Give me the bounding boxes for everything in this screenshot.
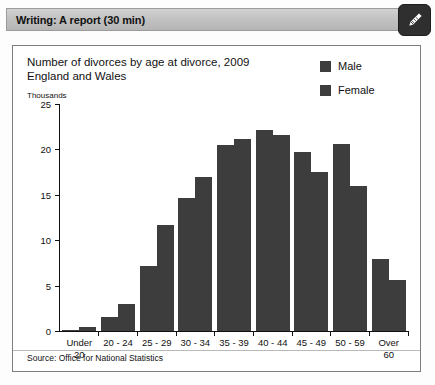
x-axis-tick [292,331,331,336]
bar-female [311,172,328,331]
legend-swatch-female [320,85,331,96]
y-axis-tick-label: 10 [27,235,51,246]
legend-swatch-male [320,61,331,72]
bar-group [292,104,331,331]
bar-male [140,266,157,331]
x-axis-label: Over 60 [369,337,408,361]
x-axis-tick [176,331,215,336]
bar-group [176,104,215,331]
bar-group [137,104,176,331]
bar-group [60,104,99,331]
bar-female [389,280,406,331]
bar-groups [60,104,408,331]
x-axis-label: 30 - 34 [176,337,215,361]
bar-group [253,104,292,331]
x-axis-tick [99,331,138,336]
screenshot-root: Writing: A report (30 min) Number of div… [0,0,435,385]
chart-title-line-2: England and Wales [27,69,249,83]
plot-area: 2520151050 Under 2020 - 2425 - 2930 - 34… [27,104,409,349]
pencil-icon[interactable] [398,4,431,36]
x-axis-label: 45 - 49 [292,337,331,361]
x-axis-ticks [60,331,408,336]
chart-title-line-1: Number of divorces by age at divorce, 20… [27,55,249,69]
legend-label-female: Female [338,84,375,96]
chart-legend: Male Female [320,54,404,102]
x-axis-tick [369,331,408,336]
x-axis-tick [253,331,292,336]
bar-female [273,135,290,331]
y-axis-tick-label: 25 [27,99,51,110]
bar-group [369,104,408,331]
y-axis-tick-label: 5 [27,280,51,291]
bar-male [333,144,350,331]
legend-label-male: Male [338,60,362,72]
bar-group [99,104,138,331]
exercise-header-bar: Writing: A report (30 min) [6,8,412,31]
chart-title: Number of divorces by age at divorce, 20… [27,55,249,83]
bar-male [372,259,389,331]
page-title: Writing: A report (30 min) [7,14,145,26]
bar-male [294,152,311,331]
source-divider [13,350,420,351]
bar-female [157,225,174,331]
y-axis: 2520151050 [27,104,57,331]
x-axis-tick [60,331,99,336]
legend-item-female: Female [320,78,404,102]
y-axis-tick-label: 15 [27,189,51,200]
y-axis-tick-label: 0 [27,326,51,337]
bar-group [215,104,254,331]
bar-female [118,304,135,331]
x-axis-label: 35 - 39 [215,337,254,361]
chart-source-note: Source: Office for National Statistics [27,353,163,363]
bar-male [256,130,273,331]
x-axis-tick [331,331,370,336]
x-axis-label: 40 - 44 [253,337,292,361]
bar-female [195,177,212,331]
bar-female [350,186,367,331]
chart-panel: Number of divorces by age at divorce, 20… [12,45,421,372]
bar-group [331,104,370,331]
bar-male [217,145,234,331]
legend-item-male: Male [320,54,404,78]
bar-male [101,317,118,331]
y-axis-tick-label: 20 [27,144,51,155]
bar-female [234,139,251,331]
bar-male [178,198,195,331]
x-axis-label: 50 - 59 [331,337,370,361]
x-axis-tick [137,331,176,336]
x-axis-tick [215,331,254,336]
